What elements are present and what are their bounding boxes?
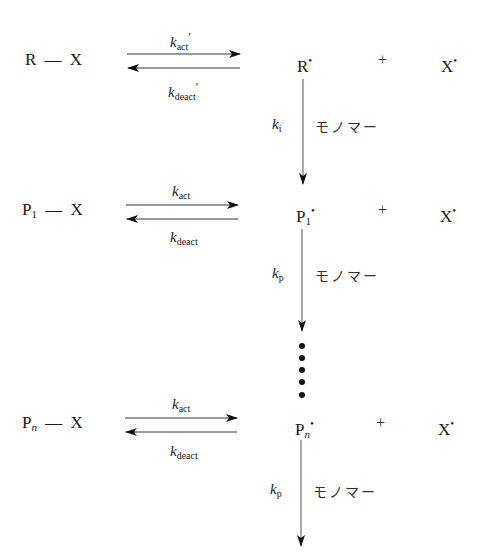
rate-sub: deact [175, 91, 196, 102]
rate-sub: deact [177, 236, 198, 247]
dormant-base: R [25, 50, 36, 69]
rate-sub: act [179, 190, 191, 201]
monomer-label-1: モノマー [315, 116, 379, 136]
monomer-label-2: モノマー [315, 265, 379, 285]
dormant-sub: 1 [31, 208, 37, 220]
bond: — [45, 413, 62, 432]
forward-rate-2: kact [172, 182, 190, 205]
rate-sub: deact [177, 450, 198, 461]
propagation-rate-1: kp [272, 264, 284, 287]
radical-sub: 1 [305, 215, 311, 227]
radical-species-1: R• [297, 50, 312, 81]
reaction-arrows [0, 0, 484, 558]
cap-base: X [441, 57, 453, 76]
plus-sign-2: + [378, 201, 387, 219]
cap-base: X [440, 207, 452, 226]
cap-atom: X [70, 413, 82, 432]
cap-base: X [438, 420, 450, 439]
cap-radical-1: X• [441, 50, 457, 77]
cap-radical-n: X• [438, 413, 454, 440]
forward-rate-1: kact′ [170, 28, 191, 56]
k-symbol: k [270, 481, 277, 497]
propagation-rate-n: kp [270, 480, 282, 503]
radical-dot-icon: • [308, 54, 312, 66]
forward-rate-n: kact [172, 395, 190, 418]
ellipsis-dot-icon [299, 379, 305, 385]
k-symbol: k [272, 265, 279, 281]
rate-sub: p [279, 272, 284, 283]
rate-sub: act [177, 41, 189, 52]
dormant-species-2: P1 — X [22, 200, 83, 224]
reverse-rate-n: kdeact [170, 442, 198, 465]
radical-sub: n [304, 428, 310, 440]
ellipsis-dot-icon [299, 355, 305, 361]
dormant-species-n: Pn — X [22, 413, 83, 437]
plus-sign-1: + [378, 51, 387, 69]
k-symbol: k [172, 396, 179, 412]
monomer-label-n: モノマー [313, 481, 377, 501]
cap-atom: X [70, 200, 82, 219]
dormant-sub: n [31, 421, 37, 433]
bond: — [45, 50, 62, 69]
k-symbol: k [272, 116, 279, 132]
initiation-rate: ki [272, 115, 281, 138]
radical-base: R [297, 57, 308, 76]
dormant-species-1: R — X [25, 50, 82, 74]
reverse-rate-2: kdeact [170, 228, 198, 251]
cap-atom: X [70, 50, 82, 69]
ellipsis-dot-icon [299, 367, 305, 373]
prime-mark: ′ [196, 80, 199, 94]
radical-dot-icon: • [310, 417, 314, 429]
radical-dot-icon: • [311, 204, 315, 216]
k-symbol: k [168, 84, 175, 100]
radical-dot-icon: • [453, 54, 457, 66]
cap-radical-2: X• [440, 200, 456, 227]
radical-species-2: P1• [296, 200, 315, 231]
rate-sub: act [179, 403, 191, 414]
ellipsis-dot-icon [299, 392, 305, 398]
radical-species-n: Pn• [295, 413, 314, 444]
radical-dot-icon: • [450, 417, 454, 429]
prime-mark: ′ [188, 30, 191, 44]
plus-sign-n: + [376, 414, 385, 432]
k-symbol: k [170, 229, 177, 245]
rate-sub: p [277, 488, 282, 499]
reverse-rate-1: kdeact′ [168, 78, 198, 106]
k-symbol: k [170, 443, 177, 459]
k-symbol: k [170, 34, 177, 50]
bond: — [45, 200, 62, 219]
radical-dot-icon: • [452, 204, 456, 216]
ellipsis-dot-icon [299, 343, 305, 349]
rate-sub: i [279, 123, 282, 134]
k-symbol: k [172, 183, 179, 199]
